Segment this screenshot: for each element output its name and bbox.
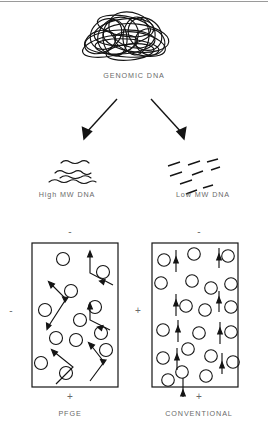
conventional-label: CONVENTIONAL (130, 409, 268, 418)
pfge-migration-paths (47, 251, 114, 384)
conventional-bottom-polarity: + (130, 392, 268, 402)
conventional-gel-box (152, 243, 238, 387)
pfge-top-polarity: - (0, 227, 140, 237)
genomic-dna-coil-icon (81, 5, 171, 62)
diagram-artwork (0, 0, 268, 428)
conventional-migration-arrows (174, 248, 225, 397)
conventional-pores (155, 248, 240, 387)
branch-arrow-left (83, 99, 118, 139)
pfge-label: PFGE (0, 409, 140, 418)
branch-arrow-right (151, 99, 186, 139)
conventional-side-polarity: + (130, 306, 146, 316)
genomic-dna-label: GENOMIC DNA (0, 71, 268, 80)
high-mw-dna-strands-icon (49, 161, 96, 184)
pfge-bottom-polarity: + (0, 392, 140, 402)
high-mw-dna-label: High MW DNA (12, 190, 122, 199)
conventional-top-polarity: - (130, 227, 268, 237)
low-mw-dna-label: Low MW DNA (148, 190, 258, 199)
pfge-side-polarity: - (2, 306, 20, 316)
pfge-gel-box (32, 243, 118, 387)
figure-canvas: GENOMIC DNA High MW DNA Low MW DNA - - -… (0, 0, 268, 428)
low-mw-dna-fragments-icon (168, 159, 220, 194)
